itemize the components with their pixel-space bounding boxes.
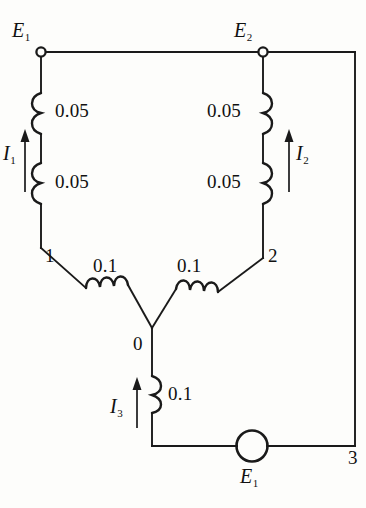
- circuit-diagram: E1 E2 I1 I2 I3 0.05 0.05 0.05 0.05 0.1 0…: [0, 0, 366, 508]
- current-arrow-i1: [21, 129, 30, 192]
- wire-diag-right-upper: [218, 258, 263, 292]
- label-node-1: 1: [45, 246, 55, 265]
- label-current-i1: I1: [3, 143, 15, 163]
- inductor-left-lower: [32, 163, 41, 204]
- label-impedance-branch-bottom: 0.1: [168, 384, 192, 403]
- wire-diag-left-lower: [128, 285, 152, 328]
- label-node-2: 2: [268, 246, 278, 265]
- label-source-e1-top: E1: [12, 20, 30, 40]
- inductor-branch-right: [176, 280, 218, 292]
- label-impedance-right-upper: 0.05: [207, 101, 241, 120]
- label-impedance-left-upper: 0.05: [55, 101, 89, 120]
- label-impedance-left-lower: 0.05: [55, 172, 89, 191]
- wire-diag-right-lower: [152, 289, 176, 328]
- inductor-branch-bottom: [152, 376, 161, 413]
- inductor-right-upper: [263, 93, 272, 134]
- current-arrow-i3: [133, 377, 142, 428]
- inductor-left-upper: [32, 93, 41, 134]
- label-source-e1-bottom: E1: [240, 466, 258, 486]
- label-impedance-branch-right: 0.1: [177, 256, 201, 275]
- label-source-e2-top: E2: [234, 20, 252, 40]
- label-current-i3: I3: [110, 396, 122, 416]
- terminal-node-e1[interactable]: [36, 47, 45, 56]
- label-impedance-right-lower: 0.05: [207, 172, 241, 191]
- current-arrow-i2: [285, 129, 294, 192]
- terminal-node-e2[interactable]: [258, 47, 267, 56]
- label-current-i2: I2: [296, 143, 308, 163]
- inductor-branch-left: [86, 276, 128, 288]
- label-impedance-branch-left: 0.1: [93, 256, 117, 275]
- voltage-source-circle[interactable]: [237, 431, 268, 462]
- circuit-schematic-svg: [0, 0, 366, 508]
- label-node-0: 0: [133, 334, 143, 353]
- inductor-right-lower: [263, 163, 272, 204]
- label-node-3: 3: [348, 448, 358, 467]
